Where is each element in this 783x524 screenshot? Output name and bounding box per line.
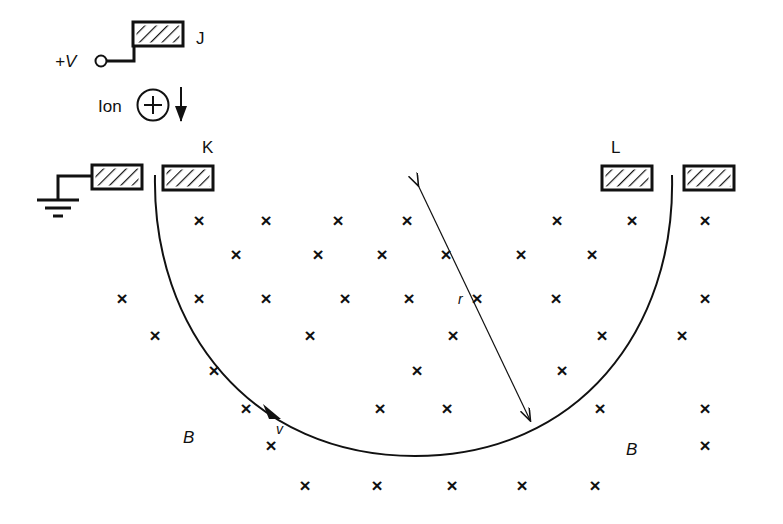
magnetic-field-into-page-x-icon: × [586, 244, 597, 265]
magnetic-field-into-page-x-icon: × [471, 288, 482, 309]
far-right-plate-hatch [688, 170, 731, 187]
ion-charge-circle-icon [138, 90, 169, 121]
magnetic-field-into-page-x-icon: × [193, 288, 204, 309]
magnetic-field-into-page-x-icon: × [516, 475, 527, 496]
magnetic-field-into-page-x-icon: × [551, 210, 562, 231]
magnetic-field-into-page-x-icon: × [699, 435, 710, 456]
magnetic-field-into-page-x-icon: × [676, 325, 687, 346]
magnetic-field-into-page-x-icon: × [339, 288, 350, 309]
ground-plate [92, 165, 142, 189]
magnetic-field-into-page-x-icon: × [556, 360, 567, 381]
magnetic-field-into-page-x-icon: × [441, 398, 452, 419]
magnetic-field-into-page-x-icon: × [376, 244, 387, 265]
ground-plate-hatch [96, 169, 139, 186]
ion-indicator: Ion [98, 87, 181, 121]
magnetic-field-into-page-x-icon: × [596, 325, 607, 346]
magnetic-field-into-page-x-icon: × [699, 398, 710, 419]
magnetic-field-into-page-x-icon: × [208, 360, 219, 381]
magnetic-field-into-page-x-icon: × [371, 475, 382, 496]
magnetic-field-into-page-x-icon: × [260, 210, 271, 231]
plate-l-label: L [611, 138, 620, 157]
magnetic-field-into-page-x-icon: × [240, 398, 251, 419]
plate-j-label: J [196, 29, 205, 48]
radius-label: r [458, 291, 464, 307]
plus-v-label: +V [55, 52, 78, 71]
magnetic-field-into-page-x-icon: × [699, 210, 710, 231]
magnetic-field-into-page-x-icon: × [411, 360, 422, 381]
ion-label: Ion [98, 97, 122, 116]
field-label-right: B [626, 440, 637, 459]
ground-wire [58, 176, 92, 199]
magnetic-field-into-page-x-icon: × [515, 244, 526, 265]
plate-j [133, 22, 183, 46]
magnetic-field-into-page-x-icon: × [589, 475, 600, 496]
magnetic-field-into-page-x-icon: × [230, 244, 241, 265]
magnetic-field-into-page-x-icon: × [260, 288, 271, 309]
plate-k-group: K [163, 138, 214, 190]
magnetic-field-into-page-x-icon: × [116, 288, 127, 309]
magnetic-field-into-page-x-icon: × [550, 288, 561, 309]
source-assembly: +V J [55, 22, 205, 71]
magnetic-field-into-page-x-icon: × [626, 210, 637, 231]
magnetic-field-into-page-x-icon: × [312, 244, 323, 265]
plate-k-hatch [167, 170, 210, 187]
magnetic-field-into-page-x-icon: × [440, 244, 451, 265]
magnetic-field-into-page-x-icon: × [594, 398, 605, 419]
plate-l-group: L [602, 138, 652, 190]
ground-symbol-icon [37, 200, 79, 216]
magnetic-field-into-page-x-icon: × [304, 325, 315, 346]
far-right-plate-group [684, 166, 734, 190]
plate-k-label: K [202, 138, 214, 157]
magnetic-field-into-page-x-icon: × [447, 325, 458, 346]
field-label-left: B [183, 428, 194, 447]
plate-l-hatch [606, 170, 649, 187]
velocity-label: v [276, 421, 284, 437]
magnetic-field-into-page-x-icon: × [401, 210, 412, 231]
magnetic-field-into-page-x-icon: × [265, 435, 276, 456]
magnetic-field-into-page-x-icon: × [699, 288, 710, 309]
ground-assembly [37, 165, 142, 216]
magnetic-field-into-page-x-icon: × [403, 288, 414, 309]
source-wire [107, 46, 134, 61]
diagram-canvas: +V J Ion [0, 0, 783, 524]
magnetic-field-into-page-x-icon: × [332, 210, 343, 231]
magnetic-field-into-page-x-icon: × [374, 398, 385, 419]
magnetic-field-into-page-x-icon: × [149, 325, 160, 346]
plate-j-hatch [137, 26, 180, 43]
terminal-node-icon [96, 56, 107, 67]
magnetic-field-into-page-x-icon: × [299, 475, 310, 496]
physics-diagram-figure: +V J Ion [0, 0, 783, 524]
magnetic-field-into-page-x-icon: × [193, 210, 204, 231]
magnetic-field-into-page-x-icon: × [446, 475, 457, 496]
